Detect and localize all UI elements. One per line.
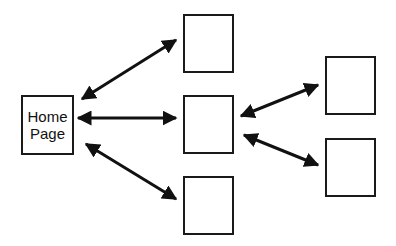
level1-bottom-box [183, 176, 234, 235]
arrow-home-to-bottom [86, 144, 176, 199]
home-page-label: Home Page [27, 108, 67, 142]
level2-top-box [325, 56, 376, 115]
level1-top-box [183, 14, 234, 73]
home-page-box: Home Page [21, 95, 74, 155]
level2-bottom-box [325, 138, 376, 197]
arrow-middle-to-level2-top [241, 85, 318, 116]
level1-middle-box [183, 95, 234, 154]
arrow-home-to-top [82, 40, 176, 99]
arrow-middle-to-level2-bottom [244, 135, 318, 165]
home-label-line1: Home [27, 108, 67, 125]
home-label-line2: Page [27, 125, 67, 142]
